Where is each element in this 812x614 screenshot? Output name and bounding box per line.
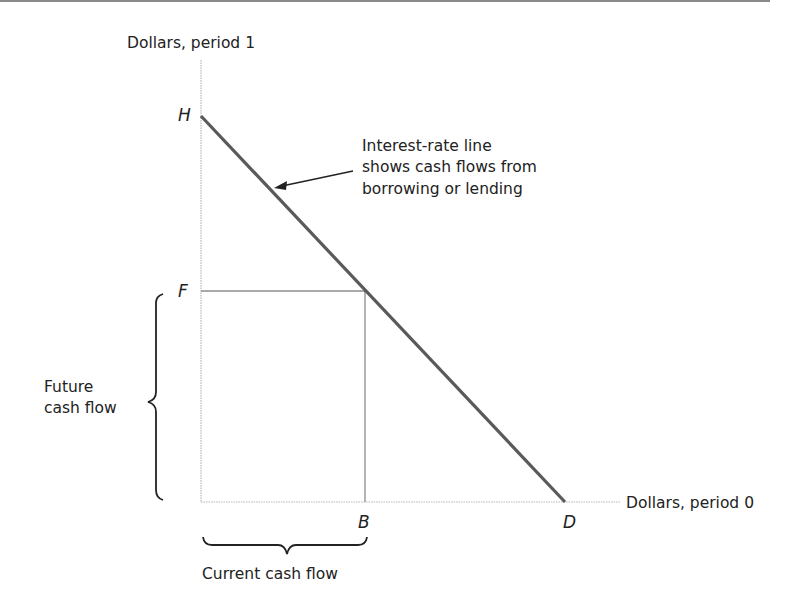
annotation-arrow-shaft: [282, 171, 353, 186]
point-label-d: D: [563, 512, 576, 532]
annotation-line-1: Interest-rate line: [362, 137, 492, 156]
point-label-f: F: [178, 281, 188, 301]
annotation-arrow-head: [274, 181, 287, 190]
annotation-line-3: borrowing or lending: [362, 180, 523, 199]
point-label-b: B: [358, 512, 370, 532]
x-axis-label: Dollars, period 0: [626, 494, 754, 513]
point-label-h: H: [178, 105, 191, 125]
current-cash-flow-brace: [203, 537, 367, 554]
current-cash-flow-label: Current cash flow: [202, 565, 338, 584]
future-cash-flow-brace: [148, 294, 163, 500]
annotation-line-2: shows cash flows from: [362, 158, 537, 177]
future-cash-flow-label-2: cash flow: [44, 399, 117, 418]
future-cash-flow-label-1: Future: [44, 378, 93, 397]
y-axis-label: Dollars, period 1: [127, 34, 255, 53]
diagram-canvas: [0, 0, 812, 614]
